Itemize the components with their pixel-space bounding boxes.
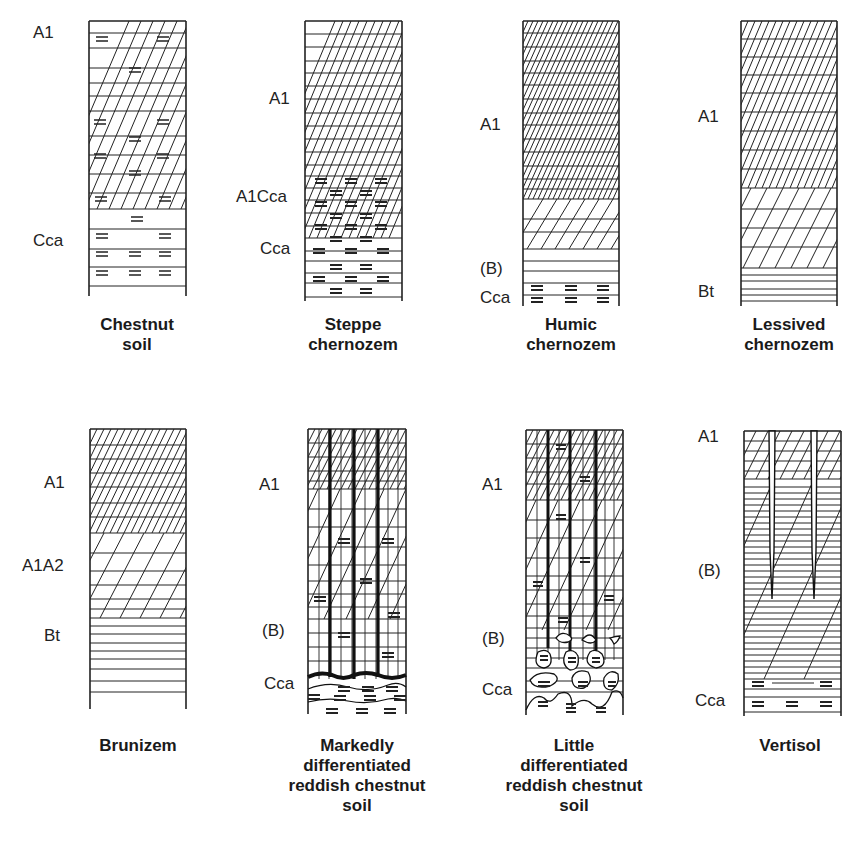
caption-line: Steppe [258, 315, 448, 335]
soil-column-steppe [305, 21, 402, 301]
horizon-label-cca: Cca [260, 239, 290, 259]
caption-line: Little [479, 736, 669, 756]
soil-column-brunizem [90, 429, 186, 709]
caption-little-differentiated-reddish-chestnut-soil: Little differentiated reddish chestnut s… [479, 736, 669, 816]
horizon-label-b: (B) [262, 621, 285, 641]
caption-line: differentiated [479, 756, 669, 776]
caption-vertisol: Vertisol [695, 736, 859, 756]
caption-line: Chestnut [42, 315, 232, 335]
caption-line: Lessived [694, 315, 859, 335]
horizon-label-cca: Cca [695, 691, 725, 711]
horizon-label-a1: A1 [259, 475, 280, 495]
horizon-label-cca: Cca [482, 680, 512, 700]
horizon-label-b: (B) [698, 561, 721, 581]
soil-column-vertisol [744, 431, 841, 716]
horizon-label-a1: A1 [698, 427, 719, 447]
caption-line: chernozem [694, 335, 859, 355]
horizon-label-cca: Cca [264, 674, 294, 694]
soil-column-lessived [741, 21, 837, 306]
caption-line: soil [262, 796, 452, 816]
caption-line: Vertisol [695, 736, 859, 756]
soil-column-markedly-reddish-chestnut [308, 429, 406, 714]
horizon-label-a1a2: A1A2 [22, 556, 64, 576]
horizon-label-a1: A1 [480, 115, 501, 135]
horizon-label-cca: Cca [480, 288, 510, 308]
soil-column-chestnut [89, 21, 186, 301]
carbonate-symbols [94, 37, 171, 275]
caption-brunizem: Brunizem [43, 736, 233, 756]
caption-chestnut-soil: Chestnut soil [42, 315, 232, 355]
horizon-label-a1: A1 [482, 475, 503, 495]
horizon-label-bt: Bt [44, 626, 60, 646]
horizon-label-a1: A1 [33, 23, 54, 43]
horizon-label-b: (B) [480, 259, 503, 279]
caption-line: Humic [476, 315, 666, 335]
shrink-swell-cracks [769, 431, 817, 599]
caption-line: chernozem [258, 335, 448, 355]
caption-line: chernozem [476, 335, 666, 355]
soil-column-humic [523, 21, 619, 306]
caption-line: soil [42, 335, 232, 355]
caption-humic-chernozem: Humic chernozem [476, 315, 666, 355]
caption-line: reddish chestnut [479, 776, 669, 796]
carbonate-symbols [313, 179, 389, 293]
caption-line: reddish chestnut [262, 776, 452, 796]
caption-line: differentiated [262, 756, 452, 776]
horizon-label-cca: Cca [33, 231, 63, 251]
caption-line: soil [479, 796, 669, 816]
caption-line: Markedly [262, 736, 452, 756]
caption-steppe-chernozem: Steppe chernozem [258, 315, 448, 355]
horizon-label-bt: Bt [698, 282, 714, 302]
horizon-label-a1: A1 [269, 89, 290, 109]
caption-markedly-differentiated-reddish-chestnut-soil: Markedly differentiated reddish chestnut… [262, 736, 452, 816]
carbonate-symbols [752, 682, 832, 706]
carbonate-symbols [531, 286, 609, 302]
horizon-label-b: (B) [482, 629, 505, 649]
horizon-label-a1: A1 [44, 473, 65, 493]
caption-line: Brunizem [43, 736, 233, 756]
horizon-label-a1: A1 [698, 107, 719, 127]
caption-lessived-chernozem: Lessived chernozem [694, 315, 859, 355]
horizon-label-a1cca: A1Cca [236, 187, 287, 207]
soil-column-little-reddish-chestnut [526, 430, 623, 715]
